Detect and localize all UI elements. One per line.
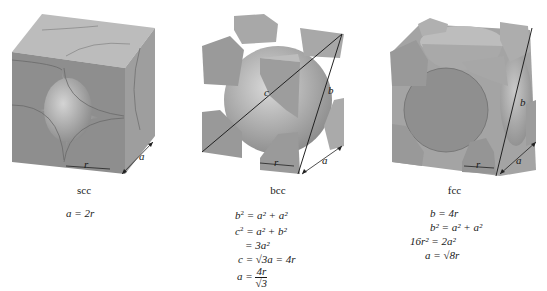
bcc-c-label: c [264, 86, 269, 98]
bcc-equation-1: b2 = a² + a² [235, 206, 296, 222]
bcc-equation-5: a = 4r√3 [235, 266, 296, 289]
fcc-equation-4: a = √8r [410, 248, 482, 262]
scc-r-label: r [84, 158, 88, 170]
bcc-equations: b2 = a² + a² c2 = a² + b² = 3a² c = √3a … [235, 206, 296, 289]
fcc-caption: fcc [366, 184, 543, 196]
bcc-panel: c b r a bcc b2 = a² + a² c2 = a² + b² = … [190, 0, 370, 291]
fcc-equations: b = 4r b² = a² + a² 16r² = 2a² a = √8r [410, 206, 482, 262]
fcc-equation-2: b² = a² + a² [410, 220, 482, 234]
scc-equations: a = 2r [66, 206, 94, 220]
fcc-panel: b r a fcc b = 4r b² = a² + a² 16r² = 2a²… [370, 0, 547, 291]
bcc-equation-2: c2 = a² + b² [235, 222, 296, 238]
fcc-b-label: b [520, 96, 526, 108]
bcc-equation-3: = 3a² [235, 238, 296, 252]
scc-caption: scc [0, 184, 174, 196]
scc-equation: a = 2r [66, 206, 94, 220]
scc-unit-cell-illustration [0, 0, 180, 200]
bcc-caption: bcc [188, 184, 368, 196]
fcc-equation-1: b = 4r [410, 206, 482, 220]
bcc-a-label: a [322, 154, 328, 166]
bcc-unit-cell-illustration [190, 0, 370, 200]
fcc-a-label: a [516, 154, 522, 166]
fcc-r-label: r [476, 158, 480, 170]
fcc-equation-3: 16r² = 2a² [410, 234, 482, 248]
bcc-r-label: r [274, 156, 278, 168]
scc-a-label: a [139, 150, 145, 162]
bcc-equation-4: c = √3a = 4r [235, 252, 296, 266]
bcc-fraction: 4r√3 [255, 266, 267, 289]
bcc-b-label: b [328, 84, 334, 96]
scc-panel: r a scc a = 2r [0, 0, 180, 291]
